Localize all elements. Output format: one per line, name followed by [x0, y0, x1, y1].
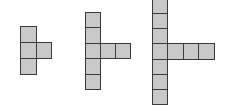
square — [152, 28, 168, 44]
square — [85, 12, 101, 28]
square — [115, 43, 131, 59]
pattern-diagram — [0, 0, 232, 111]
square — [85, 74, 101, 90]
square — [100, 43, 116, 59]
square — [152, 74, 168, 90]
square — [167, 43, 184, 60]
square — [152, 59, 168, 75]
square — [85, 27, 101, 44]
square — [20, 26, 37, 43]
square — [152, 43, 168, 60]
square — [85, 58, 101, 75]
square — [152, 89, 168, 105]
square — [20, 58, 37, 75]
square — [152, 0, 168, 14]
square — [20, 42, 37, 59]
square — [36, 42, 52, 59]
square — [183, 43, 199, 60]
square — [152, 13, 168, 29]
square — [198, 43, 215, 60]
square — [85, 43, 101, 59]
